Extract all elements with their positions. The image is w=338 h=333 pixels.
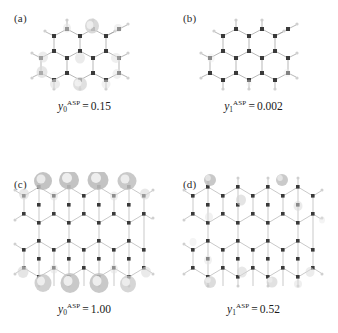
panel-d-orbital-plot	[169, 172, 338, 302]
panel-b-superscript: ASP	[233, 99, 246, 107]
small-nanographene-structure-a	[30, 14, 140, 96]
bond-network	[202, 21, 296, 88]
panel-c-orbital-plot	[0, 172, 169, 302]
panel-a-orbital-plot	[0, 14, 169, 96]
panel-c: (c)	[0, 166, 169, 333]
panel-b-value: 0.002	[257, 100, 283, 112]
panel-a-caption: y0ASP=0.15	[0, 100, 169, 112]
panel-a-equals: =	[82, 100, 89, 112]
panel-b-caption: y1ASP=0.002	[169, 100, 338, 112]
panel-d-equals: =	[251, 303, 258, 315]
panel-c-equals: =	[82, 303, 89, 315]
orbital-lobes-b	[207, 54, 291, 87]
figure-panel-grid: (a)	[0, 0, 338, 333]
small-nanographene-structure-b	[199, 14, 309, 96]
orbital-lobes-a	[36, 19, 122, 92]
large-nanographene-structure-c	[10, 172, 160, 302]
large-nanographene-structure-d	[179, 172, 329, 302]
panel-c-value: 1.00	[91, 303, 111, 315]
panel-a: (a)	[0, 0, 169, 166]
panel-d-caption: y1ASP=0.52	[169, 303, 338, 315]
panel-b-orbital-plot	[169, 14, 338, 96]
panel-c-superscript: ASP	[67, 302, 80, 310]
panel-b: (b)	[169, 0, 338, 166]
panel-d-superscript: ASP	[236, 302, 249, 310]
panel-d-value: 0.52	[260, 303, 280, 315]
carbon-atoms	[208, 27, 290, 82]
panel-b-equals: =	[248, 100, 255, 112]
panel-c-caption: y0ASP=1.00	[0, 303, 169, 315]
panel-a-superscript: ASP	[67, 99, 80, 107]
panel-d: (d)	[169, 166, 338, 333]
panel-a-value: 0.15	[91, 100, 111, 112]
